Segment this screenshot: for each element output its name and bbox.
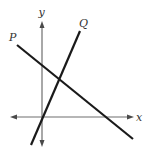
coordinate-diagram: x y P Q	[0, 0, 148, 158]
line-q: Q	[31, 17, 88, 145]
line-q-label: Q	[79, 17, 88, 30]
line-p-label: P	[8, 31, 17, 44]
y-axis-down-arrow-icon	[40, 140, 45, 147]
x-axis-left-arrow-icon	[10, 115, 17, 120]
x-axis: x	[10, 111, 143, 124]
line-p: P	[8, 31, 133, 139]
y-axis-label: y	[38, 6, 46, 19]
line-q-segment	[31, 31, 80, 145]
line-p-segment	[17, 45, 133, 139]
x-axis-right-arrow-icon	[127, 115, 134, 120]
y-axis-up-arrow-icon	[40, 21, 45, 28]
x-axis-label: x	[136, 111, 143, 124]
